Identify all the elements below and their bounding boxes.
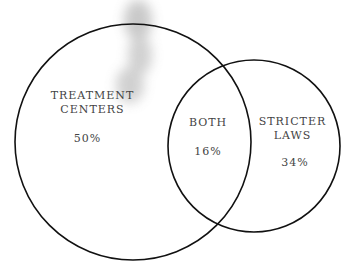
both-label: BOTH <box>185 116 231 130</box>
stricter-laws-label: STRICTER LAWS <box>255 115 330 143</box>
laws-label-line1: STRICTER <box>255 115 330 129</box>
laws-label-line2: LAWS <box>255 129 330 143</box>
stricter-laws-value: 34% <box>275 156 315 170</box>
treatment-centers-label: TREATMENT CENTERS <box>45 89 140 117</box>
treatment-centers-value: 50% <box>60 132 115 146</box>
both-value: 16% <box>185 145 231 159</box>
venn-diagram: TREATMENT CENTERS 50% BOTH 16% STRICTER … <box>0 0 355 269</box>
treatment-label-line1: TREATMENT <box>45 89 140 103</box>
treatment-label-line2: CENTERS <box>45 103 140 117</box>
smudge-decoration <box>116 0 152 103</box>
